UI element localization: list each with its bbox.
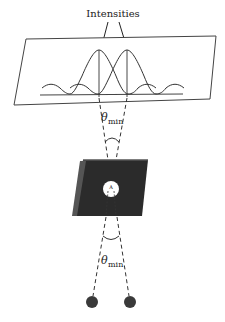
upper-rays xyxy=(99,98,127,160)
lower-angle-arc xyxy=(103,236,119,240)
upper-theta-subscript: min xyxy=(108,117,123,126)
lower-theta-subscript: min xyxy=(108,260,123,269)
upper-angle-arc xyxy=(105,138,119,142)
point-source-right xyxy=(124,296,136,308)
intensities-label: Intensities xyxy=(86,8,139,19)
point-source-left xyxy=(86,296,98,308)
diffraction-resolution-diagram: Intensities θ min A xyxy=(0,0,225,322)
upper-theta-symbol: θ xyxy=(101,111,108,124)
lower-rays xyxy=(93,217,129,296)
aperture-label: A xyxy=(108,184,113,190)
lower-theta-symbol: θ xyxy=(101,254,108,267)
